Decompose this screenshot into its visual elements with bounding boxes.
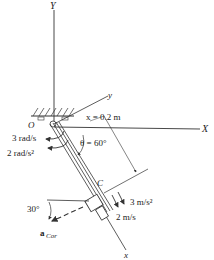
x-axis-label: X — [201, 123, 209, 134]
coriolis-acceleration: 30° a Cor — [27, 200, 89, 240]
fixed-x-axis: X — [54, 123, 209, 134]
collar-c: C — [85, 178, 109, 220]
fixed-support: O — [28, 108, 74, 130]
coriolis-angle-label: 30° — [27, 204, 40, 214]
coriolis-subscript: Cor — [46, 232, 57, 240]
kinematics-diagram: Y X O y x — [0, 0, 214, 260]
y-axis-label: Y — [50, 0, 57, 11]
collar-motion: 3 m/s² 2 m/s — [112, 192, 153, 222]
collar-acceleration-label: 3 m/s² — [130, 197, 153, 207]
distance-label: x = 0.2 m — [86, 112, 121, 122]
theta-label: θ = 60° — [80, 138, 107, 148]
rotating-y-label: y — [107, 90, 112, 100]
fixed-y-axis: Y — [50, 0, 57, 125]
theta-angle: θ = 60° — [78, 135, 107, 155]
angular-acceleration-label: 2 rad/s² — [7, 148, 34, 158]
collar-velocity-label: 2 m/s — [116, 212, 136, 222]
rotating-x-label: x — [123, 250, 128, 260]
angular-motion: 3 rad/s 2 rad/s² — [7, 131, 68, 158]
coriolis-vector-label: a — [40, 228, 45, 238]
angular-velocity-label: 3 rad/s — [12, 133, 37, 143]
collar-label: C — [97, 178, 104, 188]
origin-label: O — [28, 120, 35, 130]
